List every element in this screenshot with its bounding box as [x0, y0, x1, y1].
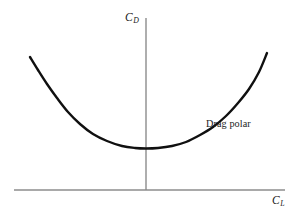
- drag-polar-figure: CD CL Drag polar: [0, 0, 297, 216]
- figure-canvas: [0, 0, 297, 216]
- drag-polar-annotation: Drag polar: [206, 119, 251, 129]
- x-axis-subscript: L: [280, 199, 285, 208]
- drag-polar-curve: [30, 53, 267, 149]
- y-axis-subscript: D: [133, 16, 139, 25]
- y-axis-symbol: C: [125, 11, 133, 23]
- x-axis-symbol: C: [272, 194, 280, 206]
- x-axis-label: CL: [272, 195, 284, 207]
- y-axis-label: CD: [125, 12, 139, 24]
